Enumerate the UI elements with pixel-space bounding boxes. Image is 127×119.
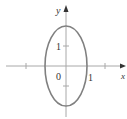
origin-label: 0 [56, 71, 61, 82]
x-tick-label: 1 [88, 72, 93, 83]
x-axis-arrow-icon [120, 64, 126, 69]
y-tick-label: 1 [56, 41, 61, 52]
y-axis-arrow-icon [64, 5, 69, 12]
ellipse-diagram: y x 0 1 1 [0, 0, 127, 119]
y-axis-label: y [55, 5, 61, 16]
x-axis-label: x [120, 71, 125, 81]
